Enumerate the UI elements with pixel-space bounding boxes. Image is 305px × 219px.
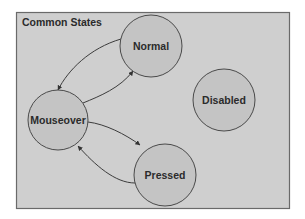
node-label: Disabled bbox=[202, 94, 246, 106]
state-node-pressed: Pressed bbox=[134, 144, 196, 206]
node-label: Pressed bbox=[145, 169, 186, 181]
node-label: Normal bbox=[133, 40, 169, 52]
state-node-normal: Normal bbox=[120, 15, 182, 77]
frame-title: Common States bbox=[22, 16, 102, 28]
state-diagram: Common States Normal Mouseover Pressed D… bbox=[0, 0, 305, 219]
state-node-mouseover: Mouseover bbox=[28, 90, 88, 150]
node-label: Mouseover bbox=[30, 114, 85, 126]
state-node-disabled: Disabled bbox=[193, 69, 255, 131]
